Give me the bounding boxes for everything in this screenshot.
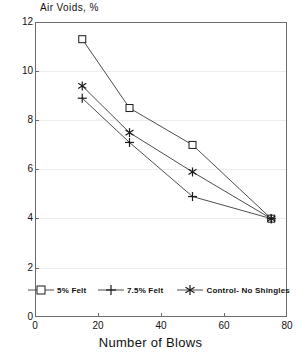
square-marker-icon: [189, 141, 196, 148]
series-line-0: [82, 39, 271, 218]
asterisk-marker-icon: [177, 284, 203, 296]
plus-marker-icon: [98, 284, 124, 296]
legend-label-5-felt: 5% Felt: [57, 286, 86, 295]
data-point-2-2: [189, 167, 197, 176]
legend-item-75-felt[interactable]: 7.5% Felt: [98, 284, 163, 296]
x-axis-title: Number of Blows: [0, 335, 301, 350]
legend-item-5-felt[interactable]: 5% Felt: [28, 284, 86, 296]
data-point-0-1: [126, 105, 133, 112]
data-point-0-2: [189, 141, 196, 148]
square-marker-icon: [79, 36, 86, 43]
series-layer: [0, 0, 301, 361]
legend-label-control: Control- No Shingles: [206, 286, 290, 295]
chart-container: Air Voids, % 12 10 8 6 4 2 0 0 20 40 60 …: [0, 0, 301, 361]
square-marker-icon: [28, 284, 54, 296]
series-line-1: [82, 98, 271, 218]
series-line-2: [82, 86, 271, 219]
legend-label-75-felt: 7.5% Felt: [127, 286, 163, 295]
data-point-0-0: [79, 36, 86, 43]
square-marker-icon: [126, 105, 133, 112]
legend-item-control[interactable]: Control- No Shingles: [177, 284, 290, 296]
legend: 5% Felt 7.5% Felt: [28, 282, 290, 298]
series-paths: [82, 39, 271, 218]
